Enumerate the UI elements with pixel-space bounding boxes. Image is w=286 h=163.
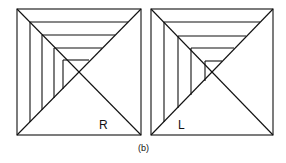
panel-right-label: L [178,118,185,132]
figure-canvas: R L (b) [0,0,286,163]
panel-right [151,9,273,135]
panel-left [17,9,141,135]
panel-left-label: R [99,118,108,132]
figure-caption: (b) [138,143,149,153]
